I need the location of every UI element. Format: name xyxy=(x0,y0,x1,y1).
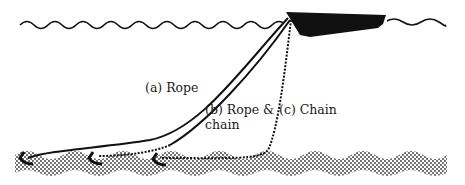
mooring-diagram: (a) Rope (b) Rope & chain (c) Chain xyxy=(0,0,465,185)
rope-and-chain-chain-segment xyxy=(98,145,170,156)
label-rope-chain-2: chain xyxy=(205,117,240,132)
seabed-stippled xyxy=(15,151,447,176)
label-rope-chain: (b) Rope & xyxy=(205,102,274,117)
diagram-canvas xyxy=(0,0,465,185)
label-rope: (a) Rope xyxy=(145,80,199,95)
label-chain: (c) Chain xyxy=(279,102,337,117)
water-surface-wave xyxy=(20,22,300,29)
water-surface-wave-right xyxy=(385,19,446,26)
